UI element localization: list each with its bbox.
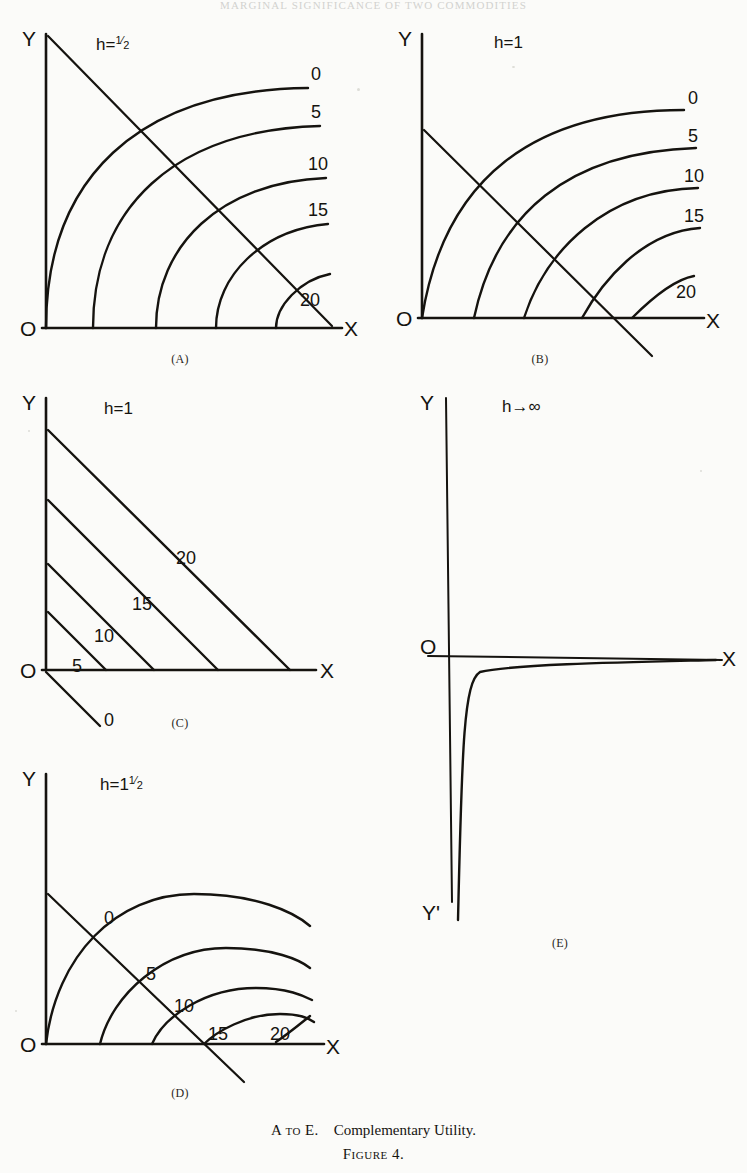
panel-e: Y O X Y' h→∞ <box>384 382 744 927</box>
panel-b-h-prefix: h= <box>494 33 513 52</box>
panel-c-curve-label-10: 10 <box>94 626 114 646</box>
panel-d-curve-label-20: 20 <box>270 1024 290 1044</box>
panel-d-h-label: h=11⁄2 <box>100 774 143 794</box>
panel-b-h-whole: 1 <box>513 33 522 52</box>
panel-a-curve-label-15: 15 <box>308 200 328 220</box>
panel-b-h-label: h=1 <box>494 33 523 52</box>
panel-c-curve-label-5: 5 <box>72 656 82 676</box>
panel-b: Y O X h=1 0 5 10 15 20 <box>384 18 744 363</box>
panel-d-curve-label-0: 0 <box>104 908 114 928</box>
panel-caption-d: (D) <box>140 1086 220 1101</box>
panel-a-curves <box>46 88 330 328</box>
panel-c-curve-label-0: 0 <box>104 710 114 730</box>
panel-caption-a: (A) <box>140 352 220 367</box>
panel-a-h-prefix: h= <box>96 35 115 54</box>
panel-caption-b: (B) <box>500 352 580 367</box>
panel-e-y-prime-label: Y' <box>422 901 440 924</box>
running-header: MARGINAL SIGNIFICANCE OF TWO COMMODITIES <box>0 0 747 9</box>
panel-d-budget-line <box>48 894 244 1082</box>
panel-b-curves <box>422 110 700 318</box>
panel-b-x-axis-label: X <box>706 309 720 332</box>
panel-a-curve-label-5: 5 <box>311 102 321 122</box>
panel-b-curve-label-20: 20 <box>676 282 696 302</box>
panel-c-curves <box>46 430 290 726</box>
panel-d-h-whole: 1 <box>119 775 128 794</box>
panel-c-y-axis-label: Y <box>22 391 36 414</box>
panel-c-h-whole: 1 <box>123 399 132 418</box>
panel-d-h-prefix: h= <box>100 775 119 794</box>
panel-b-axes <box>418 34 704 318</box>
panel-d: Y O X h=11⁄2 0 5 10 15 20 <box>8 748 368 1093</box>
panel-c-h-label: h=1 <box>104 399 133 418</box>
panel-b-curve-label-10: 10 <box>684 166 704 186</box>
panel-b-budget-line <box>424 130 652 356</box>
panel-caption-c: (C) <box>140 716 220 731</box>
panel-a-curve-label-0: 0 <box>311 64 321 84</box>
panel-c-curve-label-15: 15 <box>132 594 152 614</box>
panel-a-x-axis-label: X <box>344 317 358 340</box>
panel-e-h-prefix: h <box>502 397 511 416</box>
panel-d-y-axis-label: Y <box>22 767 36 790</box>
panel-d-curve-label-10: 10 <box>174 996 194 1016</box>
panel-e-h-label: h→∞ <box>502 397 541 416</box>
panel-b-curve-label-5: 5 <box>688 126 698 146</box>
panel-d-x-axis-label: X <box>326 1035 340 1058</box>
panel-d-h-denominator: 2 <box>137 779 143 791</box>
panel-b-y-axis-label: Y <box>398 27 412 50</box>
panel-a-origin-label: O <box>20 317 36 340</box>
panel-c-curve-label-20: 20 <box>176 548 196 568</box>
panel-d-curve-label-15: 15 <box>208 1024 228 1044</box>
panel-b-curve-label-15: 15 <box>684 206 704 226</box>
panel-caption-e: (E) <box>520 936 600 951</box>
panel-d-curve-label-5: 5 <box>146 964 156 984</box>
figure-caption: A to E. Complementary Utility. <box>0 1122 747 1139</box>
panel-e-y-axis-label: Y <box>420 391 434 414</box>
figure-caption-title: Complementary Utility. <box>334 1122 476 1138</box>
panel-e-l-curve <box>458 660 716 920</box>
panel-a-y-axis-label: Y <box>22 27 36 50</box>
panel-a-h-denominator: 2 <box>123 39 129 51</box>
figure-number: Figure 4. <box>0 1146 747 1163</box>
panel-a: Y O X h=1⁄2 0 5 10 15 20 <box>8 18 368 348</box>
panel-a-curve-label-20: 20 <box>300 290 320 310</box>
panel-c-h-prefix: h= <box>104 399 123 418</box>
panel-a-h-label: h=1⁄2 <box>96 34 129 54</box>
panel-a-curve-label-10: 10 <box>308 154 328 174</box>
panel-e-axes <box>428 398 722 902</box>
panel-c: Y O X h=1 20 15 10 5 0 <box>8 382 368 712</box>
panel-e-x-axis-label: X <box>722 647 736 670</box>
panel-b-origin-label: O <box>396 307 412 330</box>
figure-caption-prefix: A to E. <box>271 1122 319 1138</box>
panel-c-x-axis-label: X <box>320 659 334 682</box>
panel-e-h-value: →∞ <box>511 397 540 416</box>
panel-c-origin-label: O <box>20 659 36 682</box>
panel-b-curve-label-0: 0 <box>688 88 698 108</box>
panel-e-origin-label: O <box>420 635 436 658</box>
panel-d-origin-label: O <box>20 1033 36 1056</box>
figure-page: MARGINAL SIGNIFICANCE OF TWO COMMODITIES… <box>0 0 747 1173</box>
